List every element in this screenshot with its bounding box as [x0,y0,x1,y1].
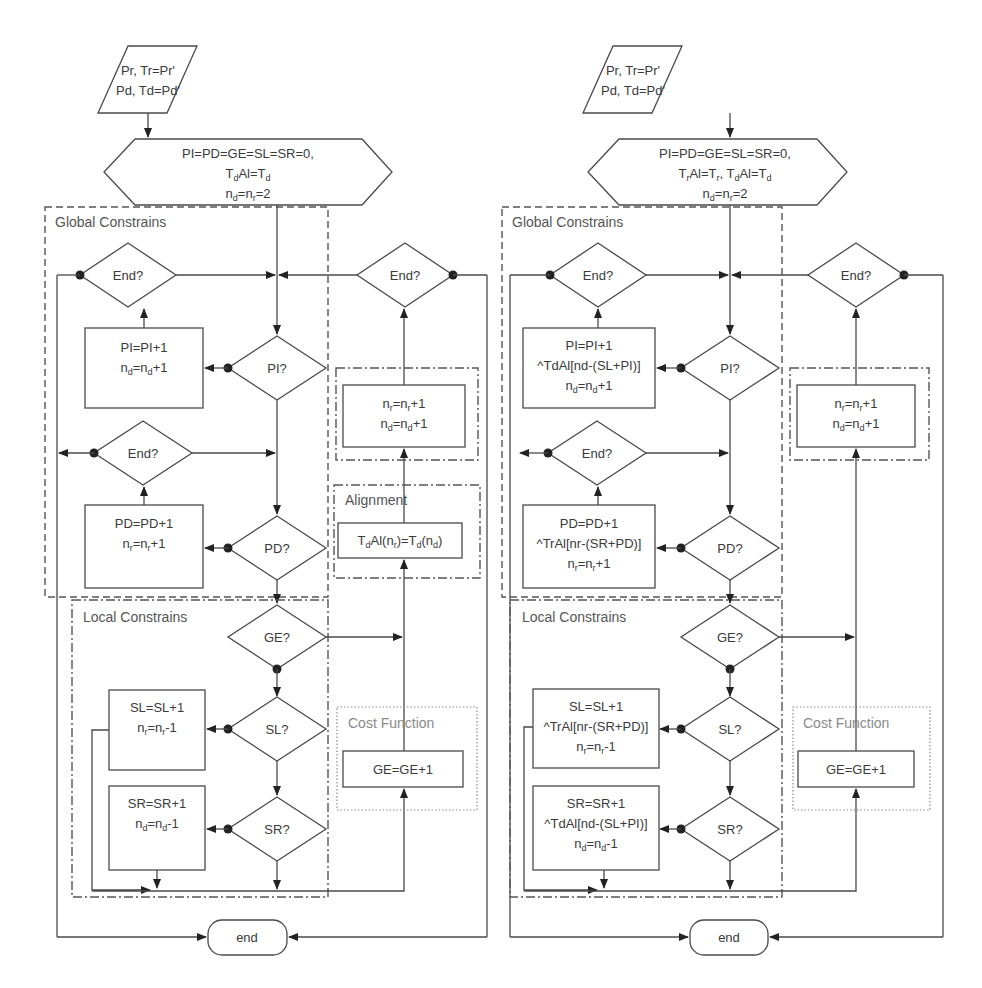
decision-label: End? [128,446,158,461]
nr-nd-line-2: nd=nd+1 [833,416,880,433]
decision-label: SL? [718,722,741,737]
process-ge-box[interactable]: GE=GE+1 [343,751,463,787]
decision-sl[interactable]: SL? [228,697,326,761]
nr-nd-line-1: nr=nr+1 [835,396,878,413]
sr-box-line-3: nd=nd-1 [574,836,618,853]
decision-label: End? [841,268,871,283]
decision-end-mid[interactable]: End? [548,421,646,485]
init-line-3: nd=nr=2 [226,186,271,203]
terminator-end[interactable]: end [690,920,768,955]
decision-end-top-right[interactable]: End? [808,243,904,307]
decision-label: SL? [265,722,288,737]
ge-box-text: GE=GE+1 [373,762,433,777]
flowchart-left: Pr, Tr=Pr' Pd, Td=Pd' PI=PD=GE=SL=SR=0, … [45,46,487,955]
alignment-label: Alignment [345,492,407,508]
decision-label: SR? [717,822,742,837]
global-constraints-label: Global Constrains [55,214,166,230]
pi-box-line-2: ^TdAl[nd-(SL+PI)] [537,358,640,373]
sl-box-line-2: ^TrAl[nr-(SR+PD)] [544,719,649,734]
decision-label: GE? [717,630,743,645]
init-line-3: nd=nr=2 [703,186,748,203]
cost-function-label: Cost Function [348,715,434,731]
ge-box-text: GE=GE+1 [826,762,886,777]
process-sr-box[interactable]: SR=SR+1 nd=nd-1 [109,786,205,870]
sl-box-line-3: nr=nr-1 [576,739,616,756]
process-pd-box[interactable]: PD=PD+1 nr=nr+1 [85,505,203,588]
decision-label: End? [113,268,143,283]
sl-box-line-2: nr=nr-1 [137,720,177,737]
process-ge-box[interactable]: GE=GE+1 [798,751,914,787]
decision-label: End? [582,446,612,461]
terminator-label: end [236,930,258,945]
process-nr-nd-box[interactable]: nr=nr+1 nd=nd+1 [343,385,465,447]
alignment-box-text: TdAl(nr)=Td(nd) [358,533,443,550]
decision-label: PD? [264,541,289,556]
cost-function-label: Cost Function [803,715,889,731]
decision-ge[interactable]: GE? [681,605,779,669]
decision-label: PI? [720,361,740,376]
decision-pi[interactable]: PI? [681,336,779,400]
pi-box-line-3: nd=nd+1 [566,378,613,395]
decision-label: End? [583,268,613,283]
decision-label: SR? [264,822,289,837]
decision-ge[interactable]: GE? [228,605,326,669]
pd-box-line-1: PD=PD+1 [115,516,174,531]
input-line-2: Pd, Td=Pd' [116,83,180,98]
terminator-end[interactable]: end [208,920,287,955]
process-alignment-box[interactable]: TdAl(nr)=Td(nd) [338,523,462,558]
decision-sr[interactable]: SR? [681,797,779,861]
pd-box-line-1: PD=PD+1 [560,516,619,531]
decision-sl[interactable]: SL? [681,697,779,761]
sr-box-line-2: ^TdAl[nd-(SL+PI)] [544,816,647,831]
nr-nd-line-1: nr=nr+1 [383,396,426,413]
process-nr-nd-box[interactable]: nr=nr+1 nd=nd+1 [797,385,915,447]
input-parallelogram[interactable]: Pr, Tr=Pr' Pd, Td=Pd' [583,46,682,113]
input-line-1: Pr, Tr=Pr' [121,63,175,78]
terminator-label: end [718,930,740,945]
decision-pi[interactable]: PI? [228,336,326,400]
process-pi-box[interactable]: PI=PI+1 nd=nd+1 [85,328,203,408]
pi-box-line-1: PI=PI+1 [566,338,613,353]
process-sr-box[interactable]: SR=SR+1 ^TdAl[nd-(SL+PI)] nd=nd-1 [533,786,659,870]
pi-box-line-1: PI=PI+1 [121,340,168,355]
decision-label: End? [390,268,420,283]
pd-box-line-2: nr=nr+1 [123,536,166,553]
nr-nd-line-2: nd=nd+1 [381,416,428,433]
decision-pd[interactable]: PD? [228,516,326,580]
decision-pd[interactable]: PD? [681,516,779,580]
decision-sr[interactable]: SR? [228,797,326,861]
init-line-2: TrAl=Tr, TdAl=Td [678,166,771,183]
decision-end-top-left[interactable]: End? [80,243,176,307]
local-constraints-label: Local Constrains [83,609,187,625]
decision-end-top-left[interactable]: End? [550,243,646,307]
process-sl-box[interactable]: SL=SL+1 ^TrAl[nr-(SR+PD)] nr=nr-1 [533,689,659,768]
init-line-2: TdAl=Td [225,166,270,183]
init-hexagon[interactable]: PI=PD=GE=SL=SR=0, TrAl=Tr, TdAl=Td nd=nr… [588,139,847,205]
process-pd-box[interactable]: PD=PD+1 ^TrAl[nr-(SR+PD)] nr=nr+1 [523,505,655,588]
decision-label: GE? [264,630,290,645]
sl-box-line-1: SL=SL+1 [569,699,623,714]
sl-box-line-1: SL=SL+1 [130,700,184,715]
pi-box-line-2: nd=nd+1 [121,360,168,377]
flowchart-canvas: Pr, Tr=Pr' Pd, Td=Pd' PI=PD=GE=SL=SR=0, … [0,0,982,988]
input-line-1: Pr, Tr=Pr' [606,63,660,78]
input-line-2: Pd, Td=Pd' [601,83,665,98]
global-constraints-label: Global Constrains [512,214,623,230]
decision-label: PI? [267,361,287,376]
decision-end-mid[interactable]: End? [94,421,192,485]
decision-label: PD? [717,541,742,556]
decision-end-top-right[interactable]: End? [357,243,453,307]
init-line-1: PI=PD=GE=SL=SR=0, [182,146,314,161]
init-line-1: PI=PD=GE=SL=SR=0, [659,146,791,161]
pd-box-line-3: nr=nr+1 [568,556,611,573]
sr-box-line-1: SR=SR+1 [128,796,187,811]
init-hexagon[interactable]: PI=PD=GE=SL=SR=0, TdAl=Td nd=nr=2 [104,139,392,205]
local-constraints-label: Local Constrains [522,609,626,625]
pd-box-line-2: ^TrAl[nr-(SR+PD)] [537,536,642,551]
sr-box-line-2: nd=nd-1 [135,816,179,833]
process-pi-box[interactable]: PI=PI+1 ^TdAl[nd-(SL+PI)] nd=nd+1 [523,328,655,408]
sr-box-line-1: SR=SR+1 [567,796,626,811]
flowchart-right: Pr, Tr=Pr' Pd, Td=Pd' PI=PD=GE=SL=SR=0, … [502,46,943,955]
input-parallelogram[interactable]: Pr, Tr=Pr' Pd, Td=Pd' [98,46,197,113]
process-sl-box[interactable]: SL=SL+1 nr=nr-1 [109,690,205,770]
